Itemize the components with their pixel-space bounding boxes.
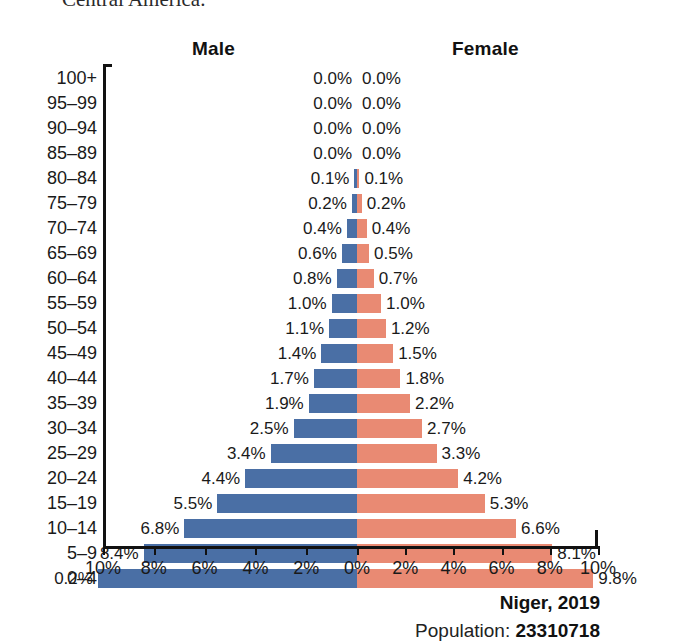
male-value-label: 0.0% (292, 116, 352, 141)
age-group-label: 35–39 (0, 391, 97, 416)
male-bar[interactable] (271, 444, 357, 463)
pyramid-row: 40–441.7%1.8% (0, 366, 678, 391)
pyramid-row: 60–640.8%0.7% (0, 266, 678, 291)
x-axis-tick (357, 546, 359, 555)
female-value-label: 3.3% (442, 441, 502, 466)
male-value-label: 0.0% (292, 141, 352, 166)
male-value-label: 0.4% (282, 216, 342, 241)
age-group-label: 75–79 (0, 191, 97, 216)
female-value-label: 6.6% (521, 516, 581, 541)
age-group-label: 30–34 (0, 416, 97, 441)
female-bar[interactable] (357, 444, 437, 463)
age-group-label: 85–89 (0, 141, 97, 166)
male-bar[interactable] (184, 519, 357, 538)
pyramid-row: 25–293.4%3.3% (0, 441, 678, 466)
age-group-label: 100+ (0, 66, 97, 91)
female-value-label: 0.2% (367, 191, 427, 216)
population-label: Population: (415, 620, 515, 641)
x-axis-tick (154, 546, 156, 555)
age-group-label: 70–74 (0, 216, 97, 241)
female-value-label: 2.2% (415, 391, 475, 416)
x-axis-tick (453, 546, 455, 555)
female-value-label: 4.2% (463, 466, 523, 491)
pyramid-row: 20–244.4%4.2% (0, 466, 678, 491)
female-bar[interactable] (357, 344, 393, 363)
age-group-label: 55–59 (0, 291, 97, 316)
male-value-label: 0.2% (287, 191, 347, 216)
male-bar[interactable] (245, 469, 357, 488)
population-value: 23310718 (515, 620, 600, 641)
x-axis-line (103, 546, 598, 549)
female-value-label: 2.7% (427, 416, 487, 441)
female-bar[interactable] (357, 369, 400, 388)
female-series-header: Female (452, 38, 519, 60)
male-bar[interactable] (329, 319, 357, 338)
female-bar[interactable] (357, 294, 381, 313)
page-text-fragment: Central America. (62, 0, 205, 12)
female-bar[interactable] (357, 244, 369, 263)
female-value-label: 0.0% (362, 141, 422, 166)
female-bar[interactable] (357, 469, 458, 488)
male-value-label: 0.0% (292, 66, 352, 91)
pyramid-row: 45–491.4%1.5% (0, 341, 678, 366)
age-group-label: 20–24 (0, 466, 97, 491)
female-value-label: 1.5% (398, 341, 458, 366)
y-axis-bracket (103, 64, 106, 548)
female-bar[interactable] (357, 169, 359, 188)
x-axis-tick (205, 546, 207, 555)
male-bar[interactable] (217, 494, 357, 513)
age-group-label: 25–29 (0, 441, 97, 466)
x-axis-tick (103, 546, 105, 555)
female-value-label: 0.5% (374, 241, 434, 266)
male-bar[interactable] (294, 419, 358, 438)
population-pyramid-chart: Male Female 100+0.0%0.0%95–990.0%0.0%90–… (0, 30, 678, 644)
male-series-header: Male (192, 38, 235, 60)
age-group-label: 95–99 (0, 91, 97, 116)
female-value-label: 1.0% (386, 291, 446, 316)
pyramid-row: 80–840.1%0.1% (0, 166, 678, 191)
female-value-label: 1.8% (405, 366, 465, 391)
pyramid-row: 85–890.0%0.0% (0, 141, 678, 166)
x-axis-tick (306, 546, 308, 555)
male-value-label: 5.5% (152, 491, 212, 516)
female-bar[interactable] (357, 419, 422, 438)
female-bar[interactable] (357, 194, 362, 213)
male-bar[interactable] (332, 294, 357, 313)
pyramid-row: 75–790.2%0.2% (0, 191, 678, 216)
male-bar[interactable] (337, 269, 357, 288)
female-bar[interactable] (357, 494, 485, 513)
pyramid-row: 90–940.0%0.0% (0, 116, 678, 141)
x-axis-tick-label: 10% (568, 558, 628, 579)
pyramid-plot-area: 100+0.0%0.0%95–990.0%0.0%90–940.0%0.0%85… (0, 66, 678, 546)
age-group-label: 15–19 (0, 491, 97, 516)
male-value-label: 0.0% (292, 91, 352, 116)
pyramid-row: 65–690.6%0.5% (0, 241, 678, 266)
male-value-label: 0.1% (289, 166, 349, 191)
male-bar[interactable] (314, 369, 357, 388)
female-bar[interactable] (357, 219, 367, 238)
pyramid-row: 95–990.0%0.0% (0, 91, 678, 116)
female-value-label: 0.7% (379, 266, 439, 291)
male-bar[interactable] (342, 244, 357, 263)
female-bar[interactable] (357, 269, 374, 288)
female-value-label: 0.0% (362, 91, 422, 116)
female-bar[interactable] (357, 319, 386, 338)
age-group-label: 45–49 (0, 341, 97, 366)
x-axis-tick (598, 546, 600, 555)
female-value-label: 0.0% (362, 116, 422, 141)
female-bar[interactable] (357, 519, 516, 538)
chart-footer: Niger, 2019 Population: 23310718 (415, 592, 600, 642)
male-bar[interactable] (347, 219, 357, 238)
female-value-label: 0.4% (372, 216, 432, 241)
male-value-label: 0.8% (272, 266, 332, 291)
male-value-label: 1.9% (244, 391, 304, 416)
age-group-label: 40–44 (0, 366, 97, 391)
age-group-label: 80–84 (0, 166, 97, 191)
male-bar[interactable] (321, 344, 357, 363)
male-bar[interactable] (309, 394, 357, 413)
female-value-label: 0.1% (364, 166, 424, 191)
male-value-label: 1.0% (267, 291, 327, 316)
female-bar[interactable] (357, 394, 410, 413)
female-value-label: 1.2% (391, 316, 451, 341)
female-value-label: 0.0% (362, 66, 422, 91)
